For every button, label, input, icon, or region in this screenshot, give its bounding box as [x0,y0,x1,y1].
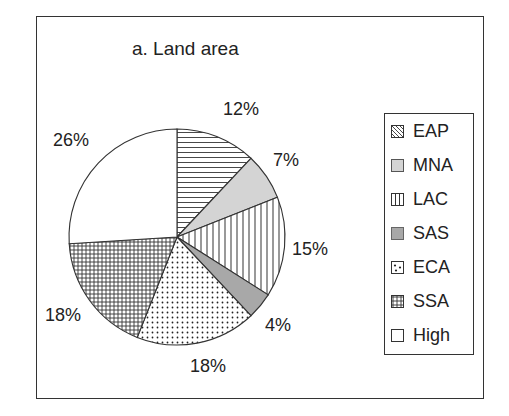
light-gray-swatch-icon [391,159,404,172]
label-sas: 4% [265,315,291,336]
legend-item-ssa: SSA [391,286,449,316]
legend-item-mna: MNA [391,150,453,180]
legend-item-eca: ECA [391,252,450,282]
label-lac: 15% [292,239,328,260]
label-ssa: 18% [45,305,81,326]
label-eap: 12% [223,99,259,120]
legend: EAP MNA LAC SAS ECA SSA High [384,113,474,355]
legend-item-sas: SAS [391,218,449,248]
grid-swatch-icon [391,295,404,308]
dots-swatch-icon [391,261,404,274]
legend-item-lac: LAC [391,184,448,214]
label-high: 26% [53,130,89,151]
white-swatch-icon [391,329,404,342]
legend-item-eap: EAP [391,116,449,146]
diagonal-hatch-swatch-icon [391,125,404,138]
label-eca: 18% [190,356,226,377]
legend-item-high: High [391,320,450,350]
vertical-lines-swatch-icon [391,193,404,206]
mid-gray-swatch-icon [391,227,404,240]
label-mna: 7% [273,150,299,171]
